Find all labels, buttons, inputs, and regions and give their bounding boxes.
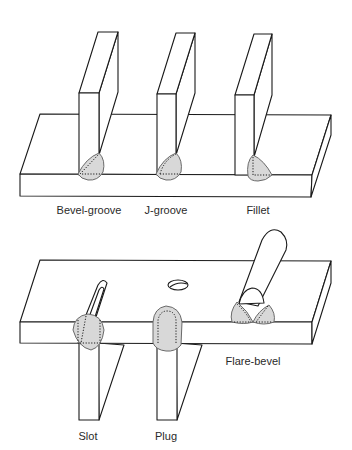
slot-leg-side bbox=[98, 343, 124, 420]
label-j-groove: J-groove bbox=[145, 204, 188, 216]
slot-leg-front bbox=[79, 343, 99, 420]
label-bevel-groove: Bevel-groove bbox=[57, 204, 122, 216]
plug-weld bbox=[153, 306, 182, 351]
plug-leg-front bbox=[157, 343, 177, 420]
bottom-assembly bbox=[20, 230, 331, 420]
top-assembly bbox=[20, 32, 331, 197]
weld-types-diagram bbox=[0, 0, 352, 450]
label-flare-bevel: Flare-bevel bbox=[225, 355, 280, 367]
label-slot: Slot bbox=[79, 430, 98, 442]
plug-leg-side bbox=[176, 343, 202, 420]
plug-hole bbox=[168, 280, 188, 290]
label-fillet: Fillet bbox=[246, 204, 269, 216]
label-plug: Plug bbox=[155, 430, 177, 442]
